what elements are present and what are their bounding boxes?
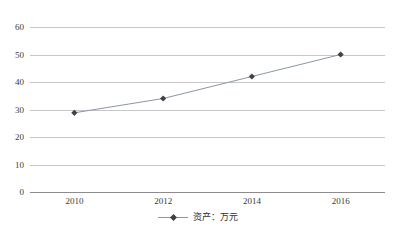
y-tick-label-0: 0 [20, 188, 25, 197]
chart-legend: 资产：万元 [0, 213, 396, 222]
x-tick-label-2016: 2016 [332, 197, 350, 206]
gridline-0 [30, 192, 385, 193]
plot-area: 0102030405060 2010201220142016 [30, 27, 385, 192]
data-point-2012 [160, 95, 166, 101]
x-tick-label-2012: 2012 [154, 197, 172, 206]
y-tick-label-20: 20 [15, 133, 24, 142]
x-tick-label-2014: 2014 [243, 197, 261, 206]
data-point-2010 [71, 110, 77, 116]
series-layer [30, 27, 385, 192]
legend-label-assets: 资产：万元 [193, 213, 238, 222]
y-tick-label-40: 40 [15, 78, 24, 87]
legend-marker-icon [158, 213, 188, 222]
x-tick-label-2010: 2010 [65, 197, 83, 206]
series-line-assets [74, 55, 340, 113]
y-tick-label-50: 50 [15, 50, 24, 59]
y-tick-label-60: 60 [15, 23, 24, 32]
line-chart: 0102030405060 2010201220142016 资产：万元 [0, 0, 396, 240]
data-point-2016 [338, 51, 344, 57]
y-tick-label-10: 10 [15, 160, 24, 169]
y-tick-label-30: 30 [15, 105, 24, 114]
data-point-2014 [249, 73, 255, 79]
